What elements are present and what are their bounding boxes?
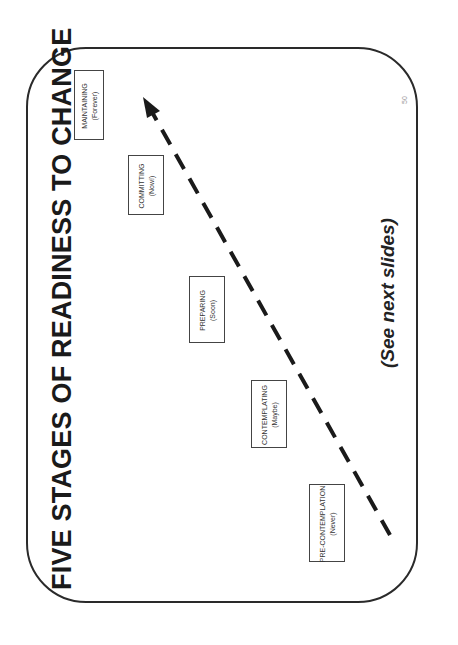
stage-box-contemplating: CONTEMPLATING (Maybe)	[251, 380, 287, 448]
stage-box-pre-contemplation: PRE-CONTEMPLATION (Never)	[309, 484, 345, 562]
stage-name: PRE-CONTEMPLATION	[318, 486, 328, 563]
stage-timing: (Soon)	[208, 300, 218, 321]
stage-box-committing: COMMITTING (Now!)	[128, 155, 164, 215]
page-number: 50	[400, 96, 410, 104]
stage-name: CONTEMPLATING	[260, 385, 270, 445]
stage-timing: (Now!)	[147, 176, 157, 197]
stage-name: COMMITTING	[137, 163, 147, 208]
stage-box-maintaining: MAINTAINING (Forever)	[74, 70, 104, 140]
stage-timing: (Forever)	[90, 92, 100, 121]
stage-name: PREPARING	[198, 290, 208, 331]
see-next-slides-note: (See next slides)	[372, 118, 404, 368]
stage-timing: (Never)	[328, 512, 338, 535]
stage-name: MAINTAINING	[80, 83, 90, 128]
stage-timing: (Maybe)	[270, 402, 280, 428]
stage-box-preparing: PREPARING (Soon)	[189, 276, 225, 343]
